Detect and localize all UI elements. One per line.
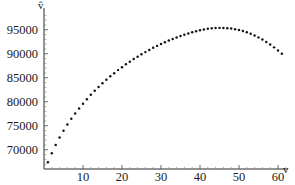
data-point — [277, 49, 279, 51]
y-tick-label: 80000 — [7, 95, 38, 109]
data-point — [109, 75, 111, 77]
data-point — [51, 152, 53, 154]
data-point — [132, 58, 134, 60]
data-point — [129, 60, 131, 62]
data-point — [86, 98, 88, 100]
data-point — [249, 33, 251, 35]
data-point — [152, 47, 154, 49]
data-point — [179, 35, 181, 37]
data-point — [58, 136, 60, 138]
data-point — [253, 34, 255, 36]
y-tick-label: 75000 — [7, 119, 38, 133]
data-point — [238, 29, 240, 31]
data-point — [281, 53, 283, 55]
data-point — [140, 53, 142, 55]
data-point — [187, 32, 189, 34]
data-point — [93, 90, 95, 92]
data-point — [242, 30, 244, 32]
y-axis-title: v̂ — [38, 0, 44, 11]
data-point — [203, 28, 205, 30]
data-point — [218, 27, 220, 29]
data-point — [148, 49, 150, 51]
data-point — [222, 27, 224, 29]
data-point — [144, 51, 146, 53]
data-point — [226, 27, 228, 29]
data-point — [82, 102, 84, 104]
data-point — [113, 72, 115, 74]
data-point — [54, 144, 56, 146]
data-point — [195, 30, 197, 32]
data-point — [214, 27, 216, 29]
data-point — [78, 107, 80, 109]
data-point — [101, 82, 103, 84]
data-point — [183, 33, 185, 35]
data-point — [175, 36, 177, 38]
data-point — [121, 66, 123, 68]
y-tick-label: 70000 — [7, 143, 38, 157]
data-point — [105, 78, 107, 80]
data-point — [47, 161, 49, 163]
y-tick-label: 85000 — [7, 71, 38, 85]
data-point — [156, 45, 158, 47]
x-tick-label: 30 — [155, 170, 168, 184]
data-point — [136, 55, 138, 57]
data-point — [199, 29, 201, 31]
data-point — [160, 43, 162, 45]
data-point — [265, 41, 267, 43]
data-point — [97, 86, 99, 88]
data-point — [230, 27, 232, 29]
x-tick-label: 50 — [233, 170, 246, 184]
x-axis-title: v — [283, 163, 289, 175]
x-tick-label: 40 — [194, 170, 207, 184]
x-tick-label: 10 — [77, 170, 90, 184]
x-tick-label: 20 — [116, 170, 129, 184]
data-point — [269, 43, 271, 45]
data-point — [125, 63, 127, 65]
y-tick-label: 90000 — [7, 47, 38, 61]
data-point — [257, 36, 259, 38]
data-point — [74, 112, 76, 114]
data-point — [210, 27, 212, 29]
data-point — [246, 31, 248, 33]
chart-container: 1020304050607000075000800008500090000950… — [0, 0, 295, 185]
data-point — [261, 38, 263, 40]
y-tick-label: 95000 — [7, 23, 38, 37]
data-point — [168, 39, 170, 41]
data-point — [191, 31, 193, 33]
data-point — [62, 130, 64, 132]
data-point — [164, 41, 166, 43]
data-point — [70, 118, 72, 120]
data-point-series — [47, 27, 283, 164]
data-point — [207, 28, 209, 30]
data-point — [171, 38, 173, 40]
data-point — [273, 46, 275, 48]
data-point — [90, 94, 92, 96]
scatter-plot: 1020304050607000075000800008500090000950… — [0, 0, 295, 185]
data-point — [66, 123, 68, 125]
data-point — [234, 28, 236, 30]
data-point — [117, 69, 119, 71]
